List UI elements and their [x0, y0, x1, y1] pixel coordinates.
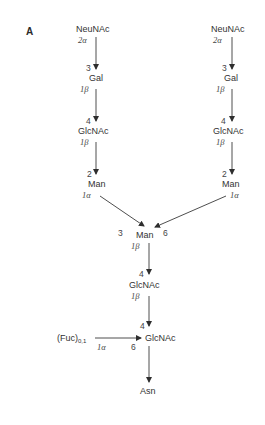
core-glcnac1-position: 4 — [139, 269, 144, 279]
left-gal-position: 3 — [86, 63, 91, 73]
left-man-residue: Man — [88, 179, 106, 189]
right-man-residue: Man — [222, 179, 240, 189]
right-neunac-anomer: 2α — [213, 35, 222, 45]
panel-label: A — [26, 27, 33, 37]
left-gal-residue: Gal — [89, 73, 103, 83]
left-glcnac-residue: GlcNAc — [78, 126, 109, 136]
right-man-position: 2 — [222, 169, 227, 179]
fucose-position: 6 — [131, 342, 136, 352]
right-man-anomer: 1α — [230, 190, 239, 200]
arrow-right-man-core — [155, 196, 226, 227]
core-glcnac2-residue: GlcNAc — [145, 333, 176, 343]
fucose-residue: (Fuc)0,1 — [57, 333, 86, 346]
core-man-anomer: 1β — [131, 241, 139, 251]
core-man-residue: Man — [136, 230, 154, 240]
core-glcnac1-anomer: 1β — [131, 291, 139, 301]
right-glcnac-position: 4 — [221, 116, 226, 126]
left-glcnac-position: 4 — [86, 116, 91, 126]
left-man-position: 2 — [87, 169, 92, 179]
left-man-anomer: 1α — [82, 190, 91, 200]
right-glcnac-residue: GlcNAc — [213, 126, 244, 136]
left-gal-anomer: 1β — [80, 84, 88, 94]
fucose-name: (Fuc) — [57, 333, 78, 343]
right-neunac-residue: NeuNAc — [211, 24, 245, 34]
arrow-left-man-core — [100, 196, 144, 226]
left-glcnac-anomer: 1β — [80, 137, 88, 147]
right-glcnac-anomer: 1β — [216, 137, 224, 147]
core-glcnac2-position: 4 — [140, 321, 145, 331]
fucose-anomer: 1α — [97, 342, 106, 352]
right-gal-position: 3 — [222, 63, 227, 73]
asn-residue: Asn — [140, 386, 156, 396]
core-glcnac1-residue: GlcNAc — [129, 280, 160, 290]
core-man-position-3: 3 — [118, 228, 123, 238]
right-gal-residue: Gal — [224, 73, 238, 83]
core-man-position-6: 6 — [163, 228, 168, 238]
left-neunac-anomer: 2α — [78, 35, 87, 45]
left-neunac-residue: NeuNAc — [76, 24, 110, 34]
right-gal-anomer: 1β — [216, 84, 224, 94]
glycan-structure-diagram: A NeuNAc 2α 3 Gal 1β 4 GlcNAc 1β 2 Man 1… — [0, 0, 265, 425]
fucose-subscript: 0,1 — [78, 338, 86, 344]
